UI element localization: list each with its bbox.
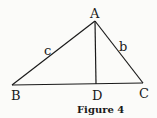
vertex-label-a: A [89,6,100,21]
side-label-c: c [44,43,51,58]
side-bc [12,83,143,85]
altitude-ad [95,21,96,84]
triangle-diagram: A B C D c b Figure 4 [0,0,157,118]
side-label-b: b [119,39,127,54]
figure-caption: Figure 4 [77,104,124,115]
vertex-label-c: C [139,86,149,101]
figure-canvas: A B C D c b Figure 4 [0,0,157,118]
vertex-label-d: D [92,88,102,103]
vertex-label-b: B [11,88,21,103]
side-ab [12,21,95,85]
